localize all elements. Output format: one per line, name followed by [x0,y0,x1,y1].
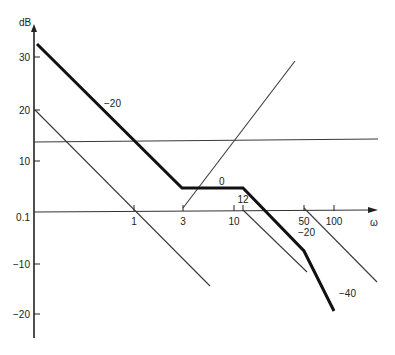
slope-label: −20 [298,227,315,238]
component-line [34,139,378,142]
x-tick-label: 12 [237,194,249,205]
x-tick-label: 1 [131,216,137,227]
x-axis-label: ω [370,217,378,228]
y-axis-unit-label: dB [19,17,32,28]
component-line [183,61,295,208]
x-tick-label: 50 [298,216,310,227]
y-tick-label: 30 [19,52,31,63]
x-axis [34,210,370,212]
component-line [35,110,210,286]
y-tick-label: 20 [19,105,31,116]
x-axis-arrowhead-icon [368,207,378,213]
y-ticks: 3020100.1−10−20 [13,52,40,320]
x-tick-label: 10 [228,216,240,227]
composite-magnitude-line [37,44,334,311]
slope-label: −40 [339,288,356,299]
bode-plot: 3020100.1−10−20 13101250100 −200−20−40 d… [0,0,395,355]
y-tick-label: −20 [13,309,30,320]
slope-label: 0 [219,176,225,187]
x-tick-label: 3 [180,216,186,227]
y-tick-label: 10 [19,156,31,167]
y-tick-label: −10 [13,259,30,270]
y-tick-label: 0.1 [16,212,30,223]
component-lines [34,61,378,286]
composite-curve [37,44,334,311]
y-axis-arrowhead-icon [31,24,37,32]
axes [31,24,378,338]
x-tick-label: 100 [326,216,343,227]
slope-labels: −200−20−40 [104,98,356,299]
slope-label: −20 [104,98,121,109]
